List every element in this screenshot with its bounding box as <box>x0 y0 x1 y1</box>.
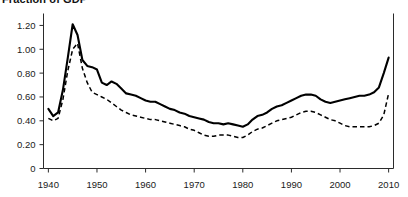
series-solid <box>48 24 388 127</box>
y-tick-label: 1.00 <box>17 44 36 55</box>
x-tick-label: 1950 <box>86 179 107 190</box>
x-tick-label: 1970 <box>184 179 205 190</box>
y-tick-label: 0.20 <box>17 139 36 150</box>
tick-marks <box>40 25 389 172</box>
x-tick-label: 1960 <box>135 179 156 190</box>
x-tick-label: 2010 <box>378 179 399 190</box>
y-tick-label: 1.20 <box>17 20 36 31</box>
plot-area: 00.200.400.600.801.001.20 19401950196019… <box>0 0 408 197</box>
axis-frame <box>44 14 394 169</box>
x-tick-label: 1990 <box>281 179 302 190</box>
x-tick-label: 1940 <box>38 179 59 190</box>
y-tick-label: 0.60 <box>17 91 36 102</box>
y-tick-label: 0.40 <box>17 115 36 126</box>
data-series-group <box>48 24 388 137</box>
y-tick-label: 0 <box>30 163 35 174</box>
chart-container: Fraction of GDP 00.200.400.600.801.001.2… <box>0 0 408 197</box>
x-tick-label: 2000 <box>329 179 350 190</box>
y-tick-label: 0.80 <box>17 68 36 79</box>
x-tick-label: 1980 <box>232 179 253 190</box>
x-axis-tick-labels: 19401950196019701980199020002010 <box>38 179 399 190</box>
axis-frame-path <box>44 14 394 169</box>
y-axis-tick-labels: 00.200.400.600.801.001.20 <box>17 20 36 174</box>
